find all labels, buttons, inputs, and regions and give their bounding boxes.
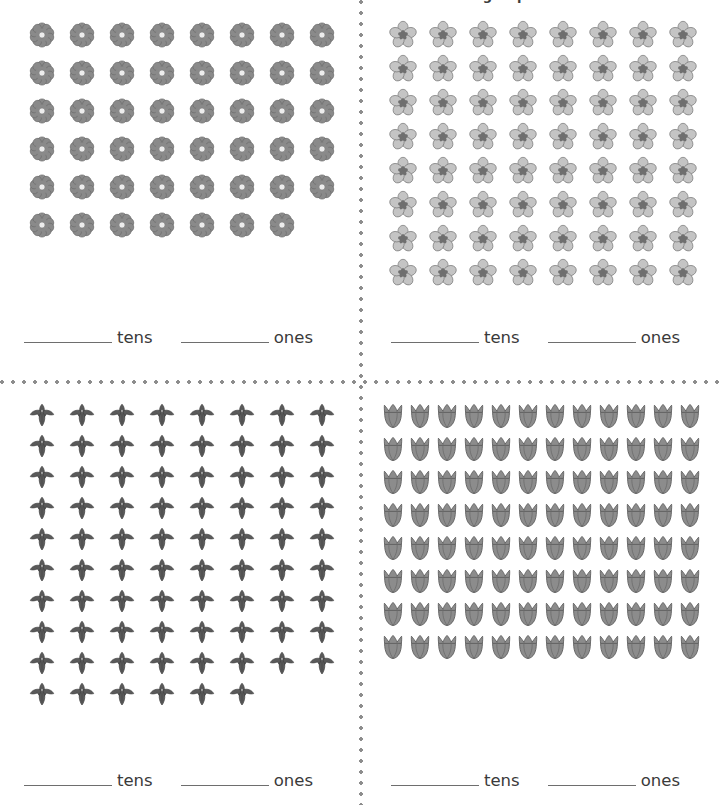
tens-answer-pair[interactable]: tens <box>391 773 520 790</box>
ones-answer-pair[interactable]: ones <box>548 773 680 790</box>
five-petal-flower-icon <box>543 154 583 188</box>
iris-flower-icon <box>62 492 102 523</box>
tens-answer-pair[interactable]: tens <box>391 330 520 347</box>
daisy-flower-icon <box>262 16 302 54</box>
tulip-flower-icon <box>676 465 703 498</box>
five-petal-flower-icon <box>543 86 583 120</box>
five-petal-flower-icon <box>503 222 543 256</box>
flower-row <box>379 597 703 630</box>
iris-flower-icon <box>302 585 342 616</box>
daisy-flower-icon <box>142 206 182 244</box>
flower-row <box>379 564 703 597</box>
daisy-flower-icon <box>262 168 302 206</box>
flower-row <box>383 154 703 188</box>
five-petal-flower-icon <box>663 188 703 222</box>
tulip-flower-icon <box>460 399 487 432</box>
ones-label: ones <box>274 773 313 790</box>
flower-grid-bottom-right <box>379 399 703 663</box>
ones-blank-line[interactable] <box>181 784 269 786</box>
five-petal-flower-icon <box>583 154 623 188</box>
tulip-flower-icon <box>406 465 433 498</box>
five-petal-flower-icon <box>423 86 463 120</box>
flower-row <box>379 498 703 531</box>
tulip-flower-icon <box>460 432 487 465</box>
ones-blank-line[interactable] <box>548 341 636 343</box>
flower-row <box>22 492 342 523</box>
ones-label: ones <box>274 330 313 347</box>
flower-row <box>22 206 342 244</box>
flower-row <box>22 399 342 430</box>
tulip-flower-icon <box>649 498 676 531</box>
iris-flower-icon <box>22 523 62 554</box>
tulip-flower-icon <box>622 432 649 465</box>
tens-blank-line[interactable] <box>391 341 479 343</box>
daisy-flower-icon <box>222 54 262 92</box>
tulip-flower-icon <box>541 432 568 465</box>
five-petal-flower-icon <box>463 188 503 222</box>
flower-row <box>22 678 342 709</box>
iris-flower-icon <box>262 430 302 461</box>
daisy-flower-icon <box>102 54 142 92</box>
tulip-flower-icon <box>514 597 541 630</box>
tulip-flower-icon <box>676 399 703 432</box>
tulip-flower-icon <box>676 564 703 597</box>
tens-answer-pair[interactable]: tens <box>24 773 153 790</box>
ones-answer-pair[interactable]: ones <box>181 330 313 347</box>
five-petal-flower-icon <box>503 120 543 154</box>
answer-row-bottom-right: tens ones <box>391 773 680 790</box>
tulip-flower-icon <box>568 399 595 432</box>
five-petal-flower-icon <box>383 18 423 52</box>
tens-answer-pair[interactable]: tens <box>24 330 153 347</box>
iris-flower-icon <box>22 492 62 523</box>
five-petal-flower-icon <box>583 120 623 154</box>
tulip-flower-icon <box>676 498 703 531</box>
tulip-flower-icon <box>487 597 514 630</box>
five-petal-flower-icon <box>623 120 663 154</box>
tulip-flower-icon <box>406 432 433 465</box>
tens-blank-line[interactable] <box>24 784 112 786</box>
iris-flower-icon <box>22 461 62 492</box>
flower-row <box>383 222 703 256</box>
five-petal-flower-icon <box>663 120 703 154</box>
ones-blank-line[interactable] <box>181 341 269 343</box>
tulip-flower-icon <box>406 399 433 432</box>
flower-row <box>383 52 703 86</box>
tens-blank-line[interactable] <box>391 784 479 786</box>
daisy-flower-icon <box>222 16 262 54</box>
iris-flower-icon <box>22 399 62 430</box>
tens-label: tens <box>484 773 520 790</box>
iris-flower-icon <box>182 492 222 523</box>
flower-row <box>379 531 703 564</box>
iris-flower-icon <box>302 430 342 461</box>
iris-flower-icon <box>22 585 62 616</box>
iris-flower-icon <box>222 492 262 523</box>
tulip-flower-icon <box>433 465 460 498</box>
iris-flower-icon <box>102 678 142 709</box>
daisy-flower-icon <box>182 130 222 168</box>
tulip-flower-icon <box>487 432 514 465</box>
tulip-flower-icon <box>433 564 460 597</box>
ones-blank-line[interactable] <box>548 784 636 786</box>
flower-grid-bottom-left <box>22 399 342 709</box>
ones-answer-pair[interactable]: ones <box>181 773 313 790</box>
daisy-flower-icon <box>102 206 142 244</box>
five-petal-flower-icon <box>503 52 543 86</box>
five-petal-flower-icon <box>583 222 623 256</box>
tulip-flower-icon <box>379 630 406 663</box>
iris-flower-icon <box>302 523 342 554</box>
tens-label: tens <box>117 330 153 347</box>
tens-blank-line[interactable] <box>24 341 112 343</box>
iris-flower-icon <box>142 616 182 647</box>
five-petal-flower-icon <box>383 154 423 188</box>
ones-answer-pair[interactable]: ones <box>548 330 680 347</box>
flower-row <box>22 461 342 492</box>
tulip-flower-icon <box>595 432 622 465</box>
tulip-flower-icon <box>406 630 433 663</box>
tulip-flower-icon <box>379 531 406 564</box>
tulip-flower-icon <box>622 564 649 597</box>
answer-row-bottom-left: tens ones <box>24 773 313 790</box>
five-petal-flower-icon <box>423 18 463 52</box>
five-petal-flower-icon <box>543 120 583 154</box>
tulip-flower-icon <box>568 564 595 597</box>
iris-flower-icon <box>102 492 142 523</box>
